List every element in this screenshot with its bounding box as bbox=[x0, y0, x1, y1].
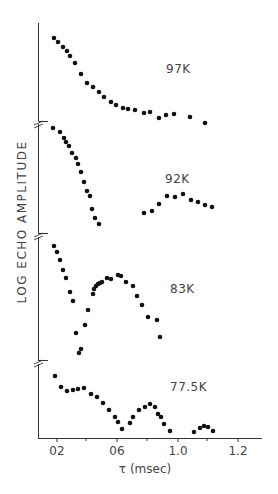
data-point bbox=[196, 200, 201, 205]
data-point bbox=[119, 274, 124, 279]
x-tick-label: 06 bbox=[109, 444, 124, 458]
data-points bbox=[51, 36, 216, 435]
data-point bbox=[85, 189, 90, 194]
data-point bbox=[109, 100, 114, 105]
data-point bbox=[158, 335, 163, 340]
data-point bbox=[142, 211, 147, 216]
data-point bbox=[53, 374, 58, 379]
data-point bbox=[95, 395, 100, 400]
data-point bbox=[97, 222, 102, 227]
data-point bbox=[52, 36, 57, 41]
data-point bbox=[142, 111, 147, 116]
data-point bbox=[107, 408, 112, 413]
data-point bbox=[116, 420, 121, 425]
data-point bbox=[188, 115, 193, 120]
data-point bbox=[52, 244, 57, 249]
data-point bbox=[203, 121, 208, 126]
data-point bbox=[79, 170, 84, 175]
panel-label-77-5k: 77.5K bbox=[170, 380, 207, 394]
data-point bbox=[62, 136, 67, 141]
data-point bbox=[71, 299, 76, 304]
data-point bbox=[74, 156, 79, 161]
data-point bbox=[109, 277, 114, 282]
data-point bbox=[85, 81, 90, 86]
data-point bbox=[79, 347, 84, 352]
data-point bbox=[64, 276, 69, 281]
data-point bbox=[206, 425, 211, 430]
y-axis-label: LOG ECHO AMPLITUDE bbox=[15, 140, 29, 303]
data-point bbox=[150, 209, 155, 214]
data-point bbox=[211, 429, 216, 434]
data-point bbox=[148, 110, 153, 115]
data-point bbox=[148, 402, 153, 407]
data-point bbox=[121, 106, 126, 111]
data-point bbox=[126, 107, 131, 112]
data-point bbox=[131, 284, 136, 289]
data-point bbox=[70, 151, 75, 156]
chart-plot-area bbox=[0, 0, 278, 494]
data-point bbox=[131, 415, 136, 420]
data-point bbox=[128, 421, 133, 426]
data-point bbox=[210, 205, 215, 210]
data-point bbox=[143, 405, 148, 410]
data-point bbox=[173, 195, 178, 200]
data-point bbox=[102, 95, 107, 100]
data-point bbox=[93, 216, 98, 221]
data-point bbox=[146, 315, 151, 320]
data-point bbox=[100, 280, 105, 285]
data-point bbox=[79, 72, 84, 77]
data-point bbox=[74, 331, 79, 336]
data-point bbox=[82, 386, 87, 391]
data-point bbox=[140, 303, 145, 308]
panel-label-97k: 97K bbox=[166, 62, 191, 76]
data-point bbox=[83, 323, 88, 328]
data-point bbox=[61, 268, 66, 273]
data-point bbox=[58, 130, 63, 135]
data-point bbox=[67, 144, 72, 149]
data-point bbox=[82, 180, 87, 185]
data-point bbox=[55, 250, 60, 255]
data-point bbox=[51, 126, 56, 131]
x-tick-label: 1.2 bbox=[228, 444, 247, 458]
data-point bbox=[157, 202, 162, 207]
data-point bbox=[189, 198, 194, 203]
data-point bbox=[120, 427, 125, 432]
data-point bbox=[164, 113, 169, 118]
x-axis bbox=[38, 438, 262, 442]
data-point bbox=[76, 162, 81, 167]
data-point bbox=[88, 194, 93, 199]
data-point bbox=[165, 194, 170, 199]
data-point bbox=[56, 40, 61, 45]
data-point bbox=[203, 203, 208, 208]
data-point bbox=[114, 103, 119, 108]
x-tick-label: 02 bbox=[49, 444, 64, 458]
data-point bbox=[192, 430, 197, 435]
data-point bbox=[90, 207, 95, 212]
data-point bbox=[97, 90, 102, 95]
data-point bbox=[168, 429, 173, 434]
data-point bbox=[86, 308, 91, 313]
data-point bbox=[101, 401, 106, 406]
data-point bbox=[162, 422, 167, 427]
data-point bbox=[65, 49, 70, 54]
data-point bbox=[135, 294, 140, 299]
y-axis bbox=[39, 23, 49, 438]
data-point bbox=[68, 290, 73, 295]
data-point bbox=[181, 192, 186, 197]
data-point bbox=[71, 388, 76, 393]
data-point bbox=[105, 276, 110, 281]
data-point bbox=[133, 108, 138, 113]
data-point bbox=[124, 280, 129, 285]
data-point bbox=[65, 389, 70, 394]
data-point bbox=[137, 408, 142, 413]
data-point bbox=[155, 318, 160, 323]
panel-label-83k: 83K bbox=[170, 282, 195, 296]
data-point bbox=[76, 387, 81, 392]
data-point bbox=[73, 61, 78, 66]
data-point bbox=[77, 351, 82, 356]
panel-label-92k: 92K bbox=[165, 172, 190, 186]
data-point bbox=[68, 54, 73, 59]
data-point bbox=[157, 116, 162, 121]
data-point bbox=[153, 405, 158, 410]
data-point bbox=[58, 258, 63, 263]
